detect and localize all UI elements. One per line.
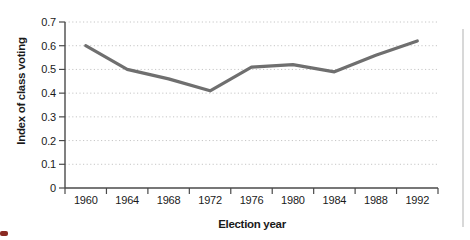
x-tick-label: 1964 xyxy=(115,194,139,206)
y-tick-label: 0.1 xyxy=(41,158,56,170)
y-tick-label: 0.6 xyxy=(41,40,56,52)
x-tick-label: 1976 xyxy=(240,194,264,206)
x-tick-label: 1984 xyxy=(323,194,347,206)
x-tick-label: 1992 xyxy=(405,194,429,206)
y-tick-label: 0.2 xyxy=(41,135,56,147)
data-line xyxy=(86,41,418,91)
y-axis-title: Index of class voting xyxy=(15,11,29,171)
line-chart: 0.70.60.50.40.30.20.10196019641968197219… xyxy=(0,0,470,240)
x-axis-title: Election year xyxy=(172,218,332,230)
y-tick-label: 0 xyxy=(50,182,56,194)
red-corner-mark xyxy=(0,231,8,236)
x-tick-label: 1980 xyxy=(281,194,305,206)
page-edge-line xyxy=(462,29,464,227)
class-voting-figure: 0.70.60.50.40.30.20.10196019641968197219… xyxy=(0,0,470,240)
x-tick-label: 1960 xyxy=(74,194,98,206)
y-tick-label: 0.4 xyxy=(41,87,56,99)
y-tick-label: 0.7 xyxy=(41,16,56,28)
x-tick-label: 1968 xyxy=(157,194,181,206)
y-tick-label: 0.5 xyxy=(41,63,56,75)
x-tick-label: 1988 xyxy=(364,194,388,206)
x-tick-label: 1972 xyxy=(198,194,222,206)
y-tick-label: 0.3 xyxy=(41,111,56,123)
